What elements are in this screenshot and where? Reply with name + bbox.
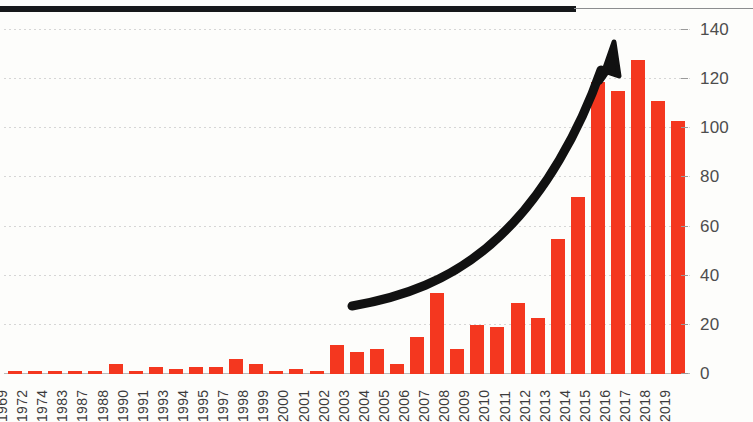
gridline-100 bbox=[4, 127, 690, 128]
y-tick-mark bbox=[681, 373, 688, 374]
plot-area bbox=[4, 30, 690, 374]
x-tick-label-2012: 2012 bbox=[518, 378, 532, 422]
y-tick-mark bbox=[681, 226, 688, 227]
bar-2013 bbox=[551, 239, 565, 374]
y-tick-mark bbox=[681, 275, 688, 276]
bar-2006 bbox=[410, 337, 424, 374]
bar-2019 bbox=[671, 121, 685, 374]
y-tick-label: 100 bbox=[700, 119, 729, 137]
bar-2015 bbox=[591, 82, 605, 374]
x-tick-label-1983: 1983 bbox=[55, 378, 69, 422]
bar-2018 bbox=[651, 101, 665, 374]
bar-1999 bbox=[269, 371, 283, 374]
x-tick-label-1993: 1993 bbox=[156, 378, 170, 422]
x-tick-label-2015: 2015 bbox=[578, 378, 592, 422]
bar-2011 bbox=[511, 303, 525, 374]
x-tick-label-1972: 1972 bbox=[15, 378, 29, 422]
gridline-0 bbox=[4, 373, 690, 374]
x-tick-label-2017: 2017 bbox=[618, 378, 632, 422]
x-tick-label-1994: 1994 bbox=[176, 378, 190, 422]
y-tick-mark bbox=[681, 176, 688, 177]
y-tick-mark bbox=[681, 127, 688, 128]
top-rule-thin bbox=[574, 8, 753, 9]
x-tick-label-2014: 2014 bbox=[558, 378, 572, 422]
y-tick-mark bbox=[681, 78, 688, 79]
top-rule-divider bbox=[0, 6, 753, 12]
bar-1974 bbox=[48, 371, 62, 374]
x-tick-label-1974: 1974 bbox=[35, 378, 49, 422]
x-tick-label-1997: 1997 bbox=[216, 378, 230, 422]
gridline-140 bbox=[4, 29, 690, 30]
bar-1969 bbox=[8, 371, 22, 374]
y-tick-label: 20 bbox=[700, 316, 719, 334]
gridline-40 bbox=[4, 275, 690, 276]
bar-2001 bbox=[310, 371, 324, 374]
x-tick-label-2011: 2011 bbox=[498, 378, 512, 422]
x-tick-label-1969: 1969 bbox=[0, 378, 9, 422]
y-tick-label: 80 bbox=[700, 168, 719, 186]
bar-1995 bbox=[209, 367, 223, 374]
bar-1998 bbox=[249, 364, 263, 374]
x-tick-label-2018: 2018 bbox=[638, 378, 652, 422]
x-tick-label-1998: 1998 bbox=[236, 378, 250, 422]
bar-1991 bbox=[149, 367, 163, 374]
bar-2016 bbox=[611, 91, 625, 374]
bar-2012 bbox=[531, 318, 545, 375]
x-tick-label-1987: 1987 bbox=[75, 378, 89, 422]
x-axis: 1969197219741983198719881990199119931994… bbox=[4, 378, 690, 422]
x-tick-label-2003: 2003 bbox=[337, 378, 351, 422]
bar-2010 bbox=[490, 327, 504, 374]
x-tick-label-1990: 1990 bbox=[116, 378, 130, 422]
bar-1997 bbox=[229, 359, 243, 374]
x-tick-label-2019: 2019 bbox=[658, 378, 672, 422]
top-rule-thick bbox=[0, 6, 576, 12]
y-tick-label: 0 bbox=[700, 365, 710, 383]
x-tick-label-1988: 1988 bbox=[96, 378, 110, 422]
x-tick-label-1995: 1995 bbox=[196, 378, 210, 422]
chart-figure: 020406080100120140 196919721974198319871… bbox=[0, 0, 753, 422]
gridline-80 bbox=[4, 176, 690, 177]
x-tick-label-2006: 2006 bbox=[397, 378, 411, 422]
x-tick-label-1999: 1999 bbox=[256, 378, 270, 422]
bar-1987 bbox=[88, 371, 102, 374]
x-tick-label-2010: 2010 bbox=[477, 378, 491, 422]
bar-2005 bbox=[390, 364, 404, 374]
bar-2002 bbox=[330, 345, 344, 374]
x-tick-label-2009: 2009 bbox=[457, 378, 471, 422]
y-tick-label: 140 bbox=[700, 21, 729, 39]
x-tick-label-2001: 2001 bbox=[297, 378, 311, 422]
bar-2008 bbox=[450, 349, 464, 374]
y-tick-mark bbox=[681, 29, 688, 30]
bar-1972 bbox=[28, 371, 42, 374]
gridline-20 bbox=[4, 324, 690, 325]
x-tick-label-1991: 1991 bbox=[136, 378, 150, 422]
y-tick-label: 120 bbox=[700, 70, 729, 88]
y-tick-label: 40 bbox=[700, 267, 719, 285]
y-tick-label: 60 bbox=[700, 218, 719, 236]
bar-2003 bbox=[350, 352, 364, 374]
x-tick-label-2004: 2004 bbox=[357, 378, 371, 422]
bar-2000 bbox=[289, 369, 303, 374]
x-tick-label-2013: 2013 bbox=[538, 378, 552, 422]
bar-1993 bbox=[169, 369, 183, 374]
bar-2004 bbox=[370, 349, 384, 374]
bar-1994 bbox=[189, 367, 203, 374]
bar-1988 bbox=[109, 364, 123, 374]
x-tick-label-2016: 2016 bbox=[598, 378, 612, 422]
x-tick-label-2007: 2007 bbox=[417, 378, 431, 422]
x-tick-label-2005: 2005 bbox=[377, 378, 391, 422]
bar-2014 bbox=[571, 197, 585, 374]
bar-2007 bbox=[430, 293, 444, 374]
bar-2017 bbox=[631, 60, 645, 375]
gridline-60 bbox=[4, 226, 690, 227]
y-tick-mark bbox=[681, 324, 688, 325]
bar-2009 bbox=[470, 325, 484, 374]
x-tick-label-2000: 2000 bbox=[276, 378, 290, 422]
gridline-120 bbox=[4, 78, 690, 79]
bar-1983 bbox=[68, 371, 82, 374]
y-axis: 020406080100120140 bbox=[690, 30, 753, 374]
bar-1990 bbox=[129, 371, 143, 374]
x-tick-label-2002: 2002 bbox=[317, 378, 331, 422]
x-tick-label-2008: 2008 bbox=[437, 378, 451, 422]
